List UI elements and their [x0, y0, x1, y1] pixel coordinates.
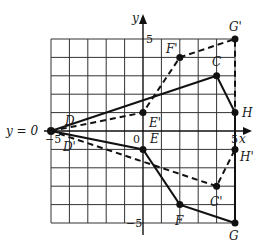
label-E: E — [149, 132, 159, 146]
label-G: G — [229, 229, 239, 243]
label-H: H — [241, 106, 253, 120]
label-H-prime: H' — [239, 150, 254, 164]
label-D: D — [64, 114, 75, 128]
label-C-prime: C' — [210, 195, 222, 209]
tick-y-pos: 5 — [146, 33, 153, 46]
label-F-prime: F' — [165, 42, 178, 56]
label-G-prime: G' — [229, 20, 242, 34]
coordinate-diagram: x y 5 −5 −5 5 0 y = 0 D C H G F E D' E' … — [0, 0, 269, 249]
tick-x-neg: −5 — [45, 133, 61, 146]
line-label: y = 0 — [5, 124, 38, 138]
label-F: F — [174, 214, 184, 228]
tick-y-neg: −5 — [126, 217, 142, 230]
label-D-prime: D' — [62, 140, 76, 154]
label-C: C — [212, 55, 221, 69]
tick-x-pos: 5 — [231, 133, 238, 146]
label-E-prime: E' — [148, 116, 161, 130]
y-axis-label: y — [131, 11, 139, 25]
x-axis-label: x — [239, 132, 246, 146]
tick-origin: 0 — [133, 133, 140, 146]
y-axis-arrow-icon — [139, 14, 147, 24]
